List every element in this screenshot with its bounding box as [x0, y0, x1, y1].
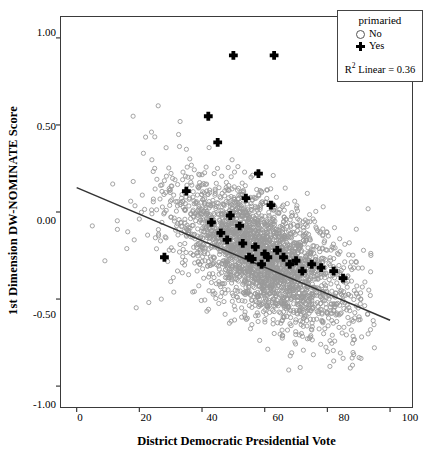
legend-entry-yes: Yes [342, 40, 418, 52]
scatter-series-no [90, 104, 376, 372]
x-tick-label: 0 [60, 411, 100, 423]
legend-entry-no: No [342, 28, 418, 40]
x-tick-label: 60 [258, 411, 298, 423]
legend-label: Yes [369, 40, 384, 52]
x-tick-label: 80 [324, 411, 364, 423]
x-tick-label: 100 [390, 411, 426, 423]
r-squared-text: Linear = 0.36 [358, 64, 415, 75]
chart-root: 1.00 0.50 0.00 -0.50 -1.00 1st Dimension… [0, 0, 426, 469]
r-exponent: 2 [352, 61, 356, 70]
scatter-series-yes [160, 51, 347, 283]
legend-title: primaried [342, 14, 418, 26]
x-axis-title: District Democratic Presidential Vote [60, 434, 413, 449]
plus-icon [356, 42, 365, 51]
open-circle-icon [356, 30, 365, 39]
legend-box: primaried No Yes R2 Linear = 0.36 [337, 10, 423, 82]
x-tick-label: 20 [126, 411, 166, 423]
r-squared-annotation: R2 Linear = 0.36 [342, 61, 418, 75]
r-symbol: R [345, 64, 352, 75]
x-tick-label: 40 [192, 411, 232, 423]
legend-label: No [369, 28, 382, 40]
